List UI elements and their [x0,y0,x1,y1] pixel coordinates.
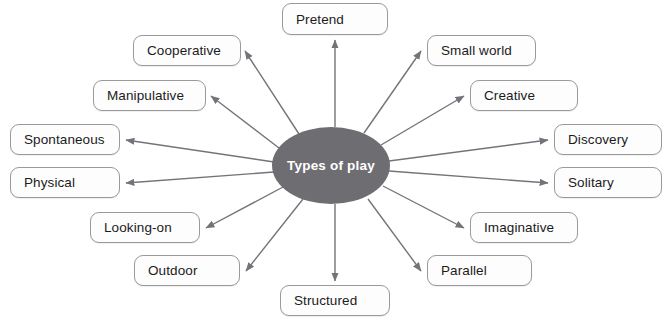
edge-arrow [383,186,464,228]
central-node-label: Types of play [287,158,375,173]
node-pretend[interactable]: Pretend [282,3,388,35]
edge-arrow [368,199,421,271]
node-outdoor[interactable]: Outdoor [134,255,240,286]
edge-arrow [126,140,274,162]
edge-arrow [389,140,548,161]
edge-arrow [364,51,421,133]
node-manipulative[interactable]: Manipulative [93,80,206,111]
diagram-canvas: PretendCooperativeManipulativeSpontaneou… [0,0,672,321]
node-label: Pretend [296,12,344,27]
node-label: Solitary [568,175,614,190]
node-structured[interactable]: Structured [280,285,390,316]
node-solitary[interactable]: Solitary [554,167,662,198]
node-spontaneous[interactable]: Spontaneous [10,124,120,155]
node-imaginative[interactable]: Imaginative [470,212,578,243]
node-label: Cooperative [147,43,221,58]
node-label: Spontaneous [24,132,105,147]
node-label: Creative [484,88,535,103]
edge-arrow [206,187,283,228]
node-label: Physical [24,175,75,190]
edge-arrow [245,51,299,134]
node-looking-on[interactable]: Looking-on [90,212,200,243]
node-small-world[interactable]: Small world [427,35,536,66]
node-label: Manipulative [107,88,184,103]
node-label: Outdoor [148,263,197,278]
node-label: Discovery [568,132,628,147]
node-label: Small world [441,43,512,58]
node-label: Looking-on [104,220,172,235]
node-physical[interactable]: Physical [10,167,120,198]
edge-arrow [126,172,274,183]
edge-arrow [381,96,464,145]
node-label: Structured [294,293,357,308]
node-cooperative[interactable]: Cooperative [133,35,241,66]
edge-arrow [246,199,303,271]
node-discovery[interactable]: Discovery [554,124,662,155]
node-parallel[interactable]: Parallel [427,255,532,286]
node-creative[interactable]: Creative [470,80,578,111]
central-node-types-of-play[interactable]: Types of play [272,127,390,204]
edge-arrow [211,96,279,148]
node-label: Parallel [441,263,487,278]
edge-arrow [389,171,548,183]
node-label: Imaginative [484,220,554,235]
